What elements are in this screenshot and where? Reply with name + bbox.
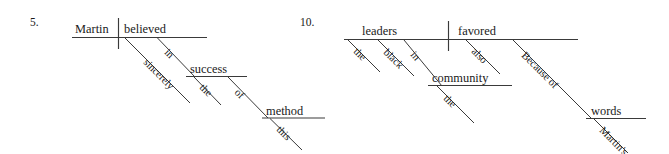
item-number-10: 10. bbox=[300, 16, 315, 28]
word-words-10: words bbox=[591, 104, 621, 118]
word-the-community-10: the bbox=[442, 93, 459, 110]
word-community-10: community bbox=[432, 71, 489, 85]
word-subject-10: leaders bbox=[362, 24, 397, 38]
word-in-10: in bbox=[408, 49, 422, 63]
word-the-subject-10: the bbox=[352, 46, 369, 63]
word-verb-5: believed bbox=[124, 22, 167, 36]
word-subject-5: Martin bbox=[75, 22, 109, 36]
diagram-page: 5. 10. Martin believed sincerely in succ… bbox=[0, 0, 669, 154]
sentence-diagram-canvas: 5. 10. Martin believed sincerely in succ… bbox=[0, 0, 669, 154]
word-martins-10: Martin's bbox=[598, 125, 630, 154]
word-also-10: also bbox=[470, 46, 490, 66]
item-number-5: 5. bbox=[30, 16, 39, 28]
diagram-5: Martin believed sincerely in success the… bbox=[72, 18, 325, 150]
word-in-5: in bbox=[163, 47, 177, 61]
word-black-10: black bbox=[382, 47, 406, 71]
word-sincerely-5: sincerely bbox=[142, 57, 177, 92]
word-of-5: of bbox=[233, 87, 247, 101]
diagram-10: leaders favored the black in community t… bbox=[344, 21, 646, 154]
word-because-of-10: Because of bbox=[520, 50, 561, 91]
word-method-5: method bbox=[266, 104, 304, 118]
word-success-5: success bbox=[190, 62, 227, 76]
diagonal-of-5 bbox=[228, 77, 268, 118]
word-verb-10: favored bbox=[458, 24, 497, 38]
